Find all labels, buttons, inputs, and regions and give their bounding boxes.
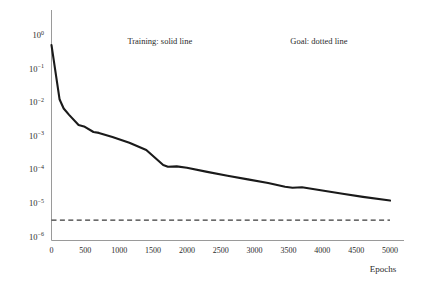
- x-axis-tick-labels: 0500100015002000250030003500400045005000: [50, 246, 399, 255]
- x-tick-label: 1000: [111, 246, 127, 255]
- x-tick-label: 3000: [247, 246, 263, 255]
- y-tick-label: 10−6: [29, 231, 44, 241]
- chart-page: 10010−110−210−310−410−510−6 050010001500…: [0, 0, 423, 294]
- x-tick-label: 5000: [382, 246, 398, 255]
- y-tick-label: 10−1: [29, 63, 44, 73]
- chart-annotation: Goal: dotted line: [290, 36, 347, 46]
- chart-annotations: Training: solid lineGoal: dotted line: [127, 36, 347, 46]
- y-tick-label: 10−2: [29, 97, 44, 107]
- chart-annotation: Training: solid line: [127, 36, 192, 46]
- x-tick-label: 2000: [179, 246, 195, 255]
- x-tick-label: 4500: [348, 246, 364, 255]
- y-tick-label: 10−3: [29, 130, 44, 140]
- chart-series-group: [52, 45, 391, 220]
- y-tick-label: 10−5: [29, 198, 44, 208]
- x-tick-label: 500: [79, 246, 91, 255]
- series-training-line: [52, 45, 391, 200]
- x-tick-label: 1500: [145, 246, 161, 255]
- y-tick-label: 10−4: [29, 164, 44, 174]
- x-tick-label: 2500: [213, 246, 229, 255]
- y-axis-tick-labels: 10010−110−210−310−410−510−6: [29, 30, 44, 242]
- x-tick-label: 0: [50, 246, 54, 255]
- y-tick-label: 100: [33, 30, 45, 40]
- x-tick-label: 4000: [314, 246, 330, 255]
- training-loss-chart: 10010−110−210−310−410−510−6 050010001500…: [0, 0, 423, 294]
- x-axis-title: Epochs: [370, 264, 397, 274]
- x-tick-label: 3500: [280, 246, 296, 255]
